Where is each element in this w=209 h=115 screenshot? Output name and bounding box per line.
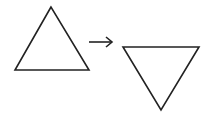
triangle-up-shape [15,7,89,70]
triangle-down-shape [123,47,199,110]
right-arrow-icon [89,37,112,47]
diagram-canvas [0,0,209,115]
